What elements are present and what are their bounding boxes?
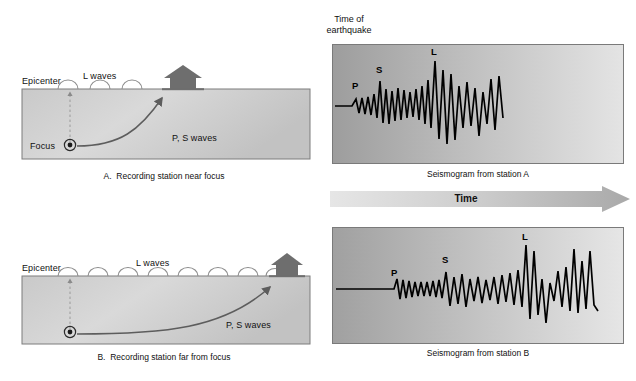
- ps-waves-label-a: P, S waves: [172, 133, 217, 143]
- seismogram-a-chart: P S L: [332, 44, 624, 164]
- epicenter-label-b: Epicenter: [22, 263, 61, 273]
- seismogram-b-marker-l: L: [522, 231, 528, 242]
- l-waves-label-b: L waves: [136, 258, 169, 268]
- recording-station-house-b: [269, 253, 305, 277]
- panel-a-caption: A. Recording station near focus: [14, 171, 314, 181]
- seismology-figure: Epicenter L waves Focus P, S waves A. Re…: [0, 0, 636, 381]
- seismogram-a-marker-s: S: [376, 64, 382, 75]
- panel-b-caption: B. Recording station far from focus: [14, 352, 314, 362]
- focus-label-a: Focus: [30, 141, 55, 151]
- seismogram-b-caption: Seismogram from station B: [332, 348, 624, 358]
- seismogram-a-marker-p: P: [352, 80, 359, 91]
- seismogram-b-chart: P S L: [332, 227, 624, 344]
- seismogram-a-caption: Seismogram from station A: [332, 169, 624, 179]
- seismogram-a-background: [333, 45, 624, 164]
- panel-a-cross-section: [14, 58, 314, 168]
- time-of-earthquake-label: Time of earthquake: [306, 14, 392, 36]
- seismogram-b-marker-p: P: [391, 267, 398, 278]
- seismogram-a-marker-l: L: [431, 46, 437, 57]
- time-axis-label: Time: [330, 193, 602, 204]
- seismogram-b-marker-s: S: [442, 254, 448, 265]
- l-waves-label-a: L waves: [83, 71, 116, 81]
- l-wave-arcs-b: [58, 268, 284, 277]
- l-wave-arcs-a: [58, 80, 142, 89]
- epicenter-label-a: Epicenter: [22, 76, 61, 86]
- ps-waves-label-b: P, S waves: [226, 320, 271, 330]
- recording-station-house-a: [162, 65, 204, 90]
